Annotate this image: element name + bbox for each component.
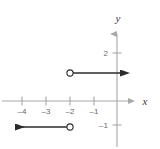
y-axis-label: y [115, 12, 121, 24]
x-tick-label-minus2: –2 [66, 107, 75, 116]
open-point-lower [67, 124, 73, 130]
y-tick-label-2: 2 [104, 49, 109, 58]
plot-svg: –4 –3 –2 –1 2 –1 x y [0, 0, 160, 149]
open-point-upper [67, 70, 73, 76]
x-tick-label-minus4: –4 [18, 107, 27, 116]
x-axis-label: x [142, 95, 148, 107]
x-tick-label-minus3: –3 [42, 107, 51, 116]
y-tick-label-minus1: –1 [99, 121, 108, 130]
x-tick-label-minus1: –1 [90, 107, 99, 116]
step-function-graph-figure: –4 –3 –2 –1 2 –1 x y [0, 0, 160, 149]
